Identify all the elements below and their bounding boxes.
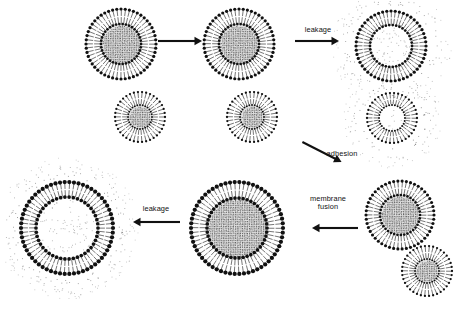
lumen-fill: [129, 106, 152, 129]
vesicle-adhered-small: [376, 220, 458, 309]
label-adhesion: adhesion: [318, 150, 366, 158]
arrow-top-left: [150, 28, 210, 54]
figure-canvas: leakageadhesionmembranefusionleakage: [0, 0, 458, 309]
label-leakage-bottom: leakage: [133, 205, 179, 213]
label-membrane-fusion: membranefusion: [302, 195, 354, 212]
label-leakage-top: leakage: [295, 26, 341, 34]
vesicle-small-intact-2: [201, 66, 303, 168]
vesicle-small-intact-1: [89, 66, 191, 168]
arrow-membrane-fusion: [304, 215, 366, 241]
lumen-fill: [241, 106, 264, 129]
lipid-tails: [368, 94, 416, 142]
vesicle-fused-leaked: [0, 156, 139, 300]
membrane-fusion-line-2: fusion: [302, 203, 354, 211]
